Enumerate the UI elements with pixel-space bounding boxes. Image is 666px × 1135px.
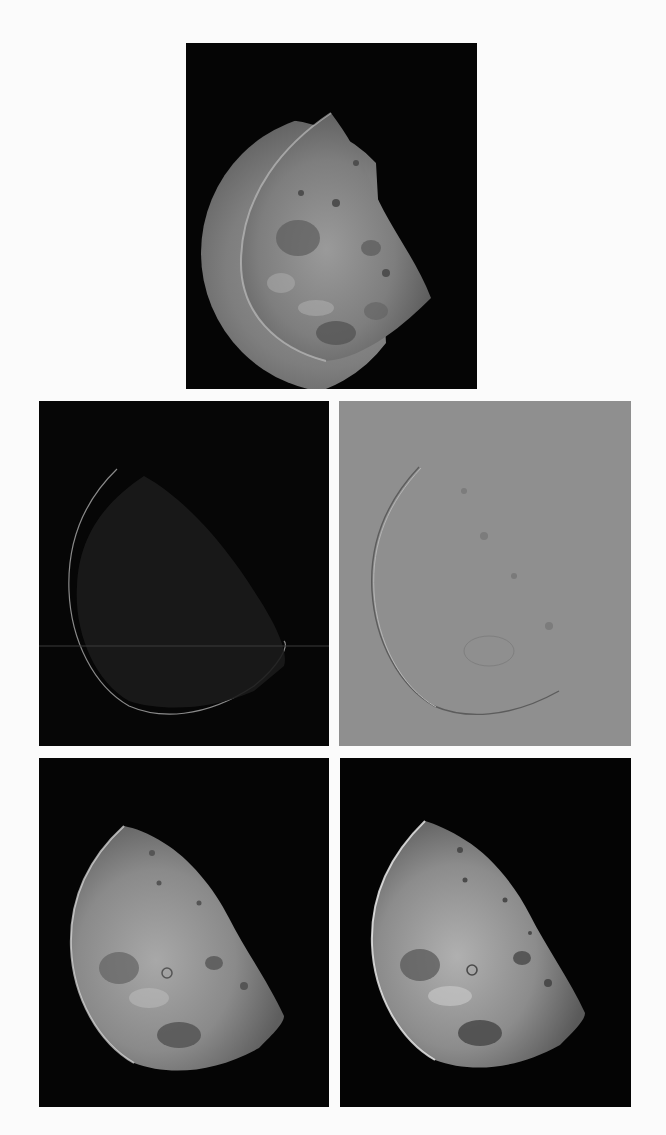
original-moon-image: [186, 43, 477, 389]
enhanced-image-mask-2: [340, 758, 631, 1107]
scaled-laplacian-graphic: [339, 401, 631, 746]
moon-graphic: [186, 43, 477, 389]
enhanced-image-mask-1: [39, 758, 329, 1107]
enhanced-moon-graphic-2: [340, 758, 631, 1107]
enhanced-moon-graphic-1: [39, 758, 329, 1107]
laplacian-graphic: [39, 401, 329, 746]
scaled-laplacian-image: [339, 401, 631, 746]
laplacian-image: [39, 401, 329, 746]
